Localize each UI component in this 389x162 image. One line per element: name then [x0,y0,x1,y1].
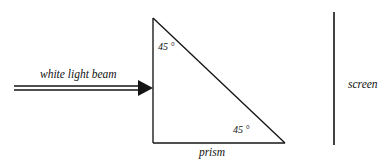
prism-label: prism [198,146,225,159]
screen-label: screen [348,78,378,90]
optics-diagram-figure: 45 ° 45 ° prism white light beam screen [0,0,389,162]
angle-label-top: 45 ° [158,41,175,52]
beam-label: white light beam [40,68,117,81]
beam-arrowhead-icon [138,80,153,96]
prism-hypotenuse-edge [153,18,285,143]
angle-label-bottom-right: 45 ° [233,124,250,135]
white-light-beam-arrow [14,80,153,96]
prism-shape [153,18,285,143]
diagram-canvas: 45 ° 45 ° prism white light beam screen [0,0,389,162]
